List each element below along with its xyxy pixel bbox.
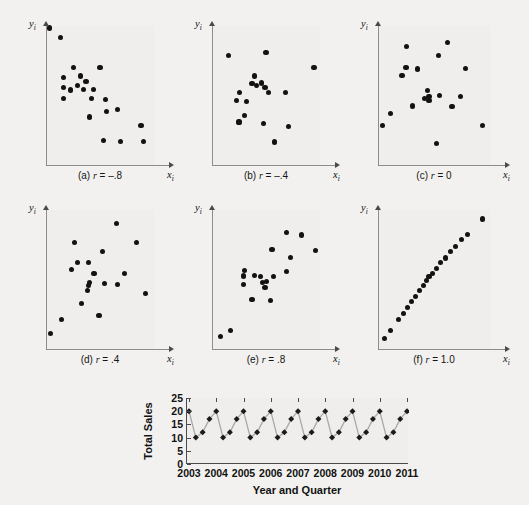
data-point — [100, 249, 105, 254]
data-point — [403, 65, 408, 70]
y-axis-line — [378, 210, 379, 349]
y-axis-label: yi — [29, 202, 36, 216]
scatter-panel-a: yixi(a) r = –.8 — [46, 26, 180, 195]
data-point — [286, 124, 291, 129]
x-tick-mark — [189, 398, 190, 402]
data-point — [91, 87, 96, 92]
data-point — [409, 299, 414, 304]
data-point — [405, 305, 410, 310]
y-axis-line — [378, 26, 379, 165]
x-axis-line — [46, 349, 170, 350]
data-point — [288, 255, 293, 260]
data-point — [262, 285, 267, 290]
panel-caption: (d) r = .4 — [46, 354, 154, 365]
x-tick-label: 2006 — [259, 468, 282, 479]
y-tick-mark — [187, 438, 191, 439]
data-point — [284, 269, 289, 274]
data-point — [299, 232, 304, 237]
data-point — [382, 336, 387, 341]
data-point — [242, 113, 247, 118]
data-point — [115, 107, 120, 112]
y-axis-line — [212, 210, 213, 349]
scatter-panel-f: yixi(f) r = 1.0 — [378, 210, 516, 379]
data-point — [410, 103, 415, 108]
x-axis-arrow-icon — [169, 346, 174, 352]
x-tick-label: 2008 — [314, 468, 337, 479]
data-point — [254, 83, 259, 88]
data-point — [436, 53, 441, 58]
data-point — [459, 237, 464, 242]
y-axis-label: yi — [195, 202, 202, 216]
y-tick-mark — [187, 411, 191, 412]
data-point — [388, 328, 393, 333]
time-series-svg — [187, 398, 409, 464]
data-point — [438, 260, 443, 265]
data-point — [122, 271, 127, 276]
data-point — [59, 317, 64, 322]
time-series-y-axis-label: Total Sales — [142, 398, 156, 464]
x-axis-label: xi — [503, 353, 510, 367]
x-tick-mark — [216, 398, 217, 402]
data-point — [71, 65, 76, 70]
data-point — [430, 271, 435, 276]
data-point — [143, 291, 148, 296]
data-point — [242, 268, 247, 273]
y-axis-label: yi — [29, 18, 36, 32]
x-axis-line — [46, 165, 170, 166]
time-series-chart: 0510152025200320042005200620072008200920… — [136, 392, 424, 502]
x-axis-arrow-icon — [335, 162, 340, 168]
y-axis-label: yi — [361, 18, 368, 32]
data-point — [87, 114, 92, 119]
data-point — [480, 123, 485, 128]
data-point — [104, 109, 109, 114]
y-tick-label: 5 — [177, 446, 183, 457]
data-point — [228, 328, 233, 333]
data-point — [249, 297, 254, 302]
data-point — [463, 66, 468, 71]
x-axis-line — [378, 165, 506, 166]
data-point — [244, 99, 249, 104]
y-axis-arrow-icon — [209, 21, 215, 26]
x-tick-mark — [244, 398, 245, 402]
x-axis-arrow-icon — [505, 162, 510, 168]
y-axis-arrow-icon — [43, 21, 49, 26]
x-tick-label: 2011 — [396, 468, 419, 479]
scatter-panel-b: yixi(b) r = –.4 — [212, 26, 346, 195]
data-point — [47, 25, 52, 30]
data-point — [89, 96, 94, 101]
data-point — [85, 288, 90, 293]
data-point — [426, 98, 431, 103]
x-axis-label: xi — [167, 169, 174, 183]
data-point — [404, 44, 409, 49]
panel-caption: (a) r = –.8 — [46, 170, 154, 181]
data-point — [437, 93, 442, 98]
data-point — [434, 266, 439, 271]
plot-area — [378, 210, 490, 349]
panel-caption: (b) r = –.4 — [212, 170, 320, 181]
data-point — [226, 53, 231, 58]
panel-caption: (c) r = 0 — [378, 170, 490, 181]
data-point — [61, 96, 66, 101]
plot-area — [46, 210, 154, 349]
x-axis-label: xi — [333, 353, 340, 367]
data-point — [399, 73, 404, 78]
x-tick-label: 2007 — [286, 468, 309, 479]
data-point — [448, 249, 453, 254]
data-point — [380, 123, 385, 128]
data-point — [75, 260, 80, 265]
y-axis-label: yi — [361, 202, 368, 216]
time-series-x-axis-label: Year and Quarter — [186, 484, 408, 496]
data-point — [261, 121, 266, 126]
data-point — [458, 94, 463, 99]
data-point — [396, 317, 401, 322]
y-tick-mark — [187, 424, 191, 425]
data-point — [283, 90, 288, 95]
data-point — [115, 282, 120, 287]
x-tick-mark — [325, 398, 326, 402]
x-tick-label: 2009 — [341, 468, 364, 479]
data-point — [258, 274, 263, 279]
scatter-panel-c: yixi(c) r = 0 — [378, 26, 516, 195]
data-point — [266, 90, 271, 95]
y-tick-label: 20 — [171, 406, 183, 417]
data-point — [264, 279, 269, 284]
